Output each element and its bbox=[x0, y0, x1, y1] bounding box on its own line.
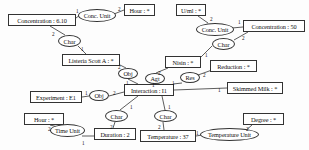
edge-label: 1 bbox=[196, 130, 199, 136]
edge-label: 2 bbox=[48, 126, 51, 132]
edge-label: 2 bbox=[118, 64, 121, 70]
edge-label: 1 bbox=[82, 140, 85, 146]
concept-node-concentration_50[interactable]: Concentration : 50 bbox=[243, 20, 305, 32]
edge-label: 1 bbox=[81, 46, 84, 52]
concept-node-degree[interactable]: Degree : * bbox=[243, 113, 284, 125]
edge-label: 2 bbox=[118, 6, 121, 12]
relation-node-obj_listeria[interactable]: Obj bbox=[118, 68, 138, 79]
relation-node-char_top_left[interactable]: Char bbox=[58, 35, 81, 47]
edge-label: 1 bbox=[172, 80, 175, 86]
edge-interaction-to-char_right bbox=[162, 96, 165, 110]
edge-concentration_50-to-char_top_right bbox=[234, 32, 248, 40]
relation-node-agt[interactable]: Agt bbox=[145, 73, 165, 84]
relation-node-time_unit[interactable]: Time Unit bbox=[50, 124, 85, 137]
edge-label: 1 bbox=[126, 80, 129, 86]
concept-node-skimmed_milk[interactable]: Skimmed Milk : * bbox=[227, 82, 283, 94]
edge-label: 2 bbox=[158, 124, 161, 130]
edge-label: 2 bbox=[113, 90, 116, 96]
edge-label: 1 bbox=[205, 52, 208, 58]
relation-node-temperature_unit[interactable]: Temperature Unit bbox=[200, 128, 259, 141]
edge-label: 2 bbox=[242, 35, 245, 41]
concept-node-listeria[interactable]: Listeria Scott A : * bbox=[62, 54, 120, 66]
edge-obj_experiment-to-interaction bbox=[109, 92, 124, 96]
concept-node-uml[interactable]: U/ml : * bbox=[176, 4, 206, 16]
relation-node-obj_experiment[interactable]: Obj bbox=[89, 90, 109, 101]
relation-node-conc_unit_right[interactable]: Conc. Unit bbox=[196, 23, 234, 36]
concept-node-reduction[interactable]: Reduction : * bbox=[210, 60, 257, 72]
relation-node-char_top_right[interactable]: Char bbox=[212, 38, 235, 50]
relation-node-char_mid[interactable]: Char bbox=[105, 110, 128, 122]
concept-node-temperature[interactable]: Temperature : 37 bbox=[140, 130, 196, 142]
concept-node-duration[interactable]: Duration : 2 bbox=[94, 128, 136, 140]
relation-node-char_right[interactable]: Char bbox=[154, 110, 177, 122]
edge-label: 2 bbox=[203, 72, 206, 78]
edge-label: 2 bbox=[158, 70, 161, 76]
edge-label: 2 bbox=[210, 16, 213, 22]
edge-experiment-to-obj_experiment bbox=[82, 96, 89, 97]
edge-interaction-to-char_mid bbox=[120, 96, 138, 110]
edge-label: 2 bbox=[110, 124, 113, 130]
edge-label: 1 bbox=[168, 104, 171, 110]
concept-node-nisin[interactable]: Nisin : * bbox=[165, 56, 201, 68]
edge-label: 1 bbox=[130, 104, 133, 110]
edge-uml-to-conc_unit_right bbox=[198, 16, 208, 23]
edge-label: 1 bbox=[238, 19, 241, 25]
concept-node-experiment[interactable]: Experiment : E1 bbox=[30, 91, 82, 103]
edge-char_right-to-temperature bbox=[163, 122, 164, 130]
relation-node-res[interactable]: Res bbox=[180, 72, 200, 83]
concept-node-hour_bottom[interactable]: Hour : * bbox=[24, 113, 64, 125]
edge-label: 1 bbox=[152, 82, 155, 88]
edge-label: 2 bbox=[246, 126, 249, 132]
conceptual-graph-diagram: Concentration : 6.10Hour : *U/ml : *Conc… bbox=[0, 0, 309, 150]
relation-node-conc_unit_left[interactable]: Conc. Unit bbox=[78, 9, 116, 22]
concept-node-hour_top[interactable]: Hour : * bbox=[124, 4, 155, 16]
edge-label: 1 bbox=[218, 87, 221, 93]
edge-label: 2 bbox=[52, 31, 55, 37]
concept-node-concentration_610[interactable]: Concentration : 6.10 bbox=[8, 14, 76, 26]
edge-label: 1 bbox=[85, 90, 88, 96]
edge-label: 1 bbox=[76, 8, 79, 14]
concept-node-interaction[interactable]: Interaction : I1 bbox=[124, 84, 174, 96]
